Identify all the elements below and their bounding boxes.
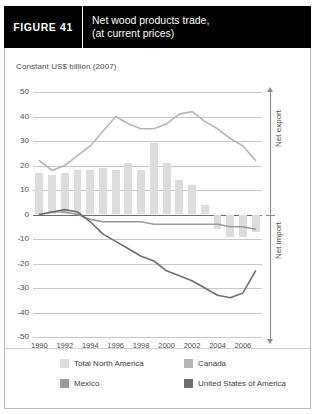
y-axis-tick-label: -30 bbox=[3, 283, 29, 292]
y-axis-tick-label: -20 bbox=[3, 259, 29, 268]
y-axis-tick-label: -40 bbox=[3, 308, 29, 317]
y-axis-tick-label: 30 bbox=[3, 136, 29, 145]
legend-label: Canada bbox=[198, 359, 226, 368]
line-series bbox=[39, 212, 255, 229]
figure-number: FIGURE 41 bbox=[13, 21, 73, 33]
legend-item: Canada bbox=[184, 359, 226, 368]
legend-label: United States of America bbox=[198, 379, 286, 388]
net-trade-axis: Net export Net import bbox=[268, 88, 310, 343]
figure-title-box: Net wood products trade, (at current pri… bbox=[83, 6, 311, 48]
net-export-label: Net export bbox=[274, 110, 283, 147]
y-axis-tick-label: 10 bbox=[3, 185, 29, 194]
legend-item: Total North America bbox=[60, 359, 144, 368]
net-import-label: Net import bbox=[274, 222, 283, 259]
line-series bbox=[39, 112, 255, 171]
legend-swatch bbox=[184, 379, 193, 388]
figure-header: FIGURE 41 Net wood products trade, (at c… bbox=[4, 6, 311, 48]
y-axis-labels: 50403020100-10-20-30-40-50 bbox=[0, 92, 29, 337]
chart-legend: Total North AmericaCanadaMexicoUnited St… bbox=[4, 348, 311, 407]
y-axis-tick-label: 50 bbox=[3, 87, 29, 96]
arrow-down-icon bbox=[267, 339, 273, 344]
y-axis-tick-label: 40 bbox=[3, 112, 29, 121]
legend-item: United States of America bbox=[184, 379, 286, 388]
arrow-up-icon bbox=[267, 87, 273, 92]
plot-area bbox=[33, 92, 262, 337]
figure-title-line-2: (at current prices) bbox=[92, 27, 311, 40]
legend-swatch bbox=[60, 359, 69, 368]
legend-swatch bbox=[184, 359, 193, 368]
legend-item: Mexico bbox=[60, 379, 99, 388]
legend-swatch bbox=[60, 379, 69, 388]
axis-mid-divider bbox=[266, 215, 275, 216]
figure-title-line-1: Net wood products trade, bbox=[92, 14, 311, 27]
y-axis-tick-label: 20 bbox=[3, 161, 29, 170]
y-axis-tick-label: -50 bbox=[3, 332, 29, 341]
legend-label: Total North America bbox=[74, 359, 144, 368]
legend-label: Mexico bbox=[74, 379, 99, 388]
y-axis-tick-label: 0 bbox=[3, 210, 29, 219]
series-overlay bbox=[33, 92, 262, 337]
chart-subtitle: Constant US$ billion (2007) bbox=[16, 62, 117, 71]
figure-card: FIGURE 41 Net wood products trade, (at c… bbox=[0, 0, 315, 414]
figure-number-box: FIGURE 41 bbox=[4, 6, 83, 48]
y-axis-tick-label: -10 bbox=[3, 234, 29, 243]
gridline bbox=[33, 337, 262, 338]
